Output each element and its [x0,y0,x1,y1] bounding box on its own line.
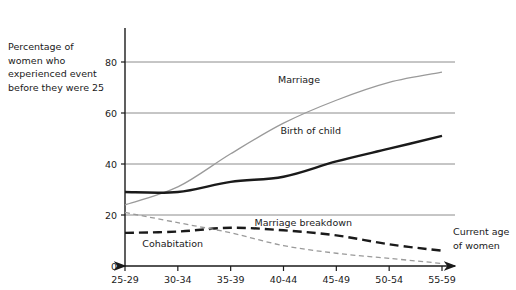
y-tick-label: 80 [105,57,117,68]
y-tick-label: 60 [105,108,117,119]
series-line [125,72,442,205]
series-annotations: MarriageBirth of childMarriage breakdown… [142,74,352,249]
y-tick-label: 0 [111,261,117,272]
x-tick-label: 40-44 [270,274,298,285]
x-tick-label: 35-39 [217,274,245,285]
series-label: Cohabitation [142,238,203,249]
x-tick-label: 25-29 [111,274,139,285]
x-axis-ticks: 25-2930-3435-3940-4445-4950-5455-59 [111,266,456,285]
series-label: Marriage breakdown [254,217,352,228]
x-tick-label: 30-34 [164,274,192,285]
chart-container: Percentage of women who experienced even… [0,0,516,290]
y-tick-label: 40 [105,159,117,170]
line-chart-plot: 020406080 25-2930-3435-3940-4445-4950-54… [0,0,516,290]
x-tick-label: 55-59 [428,274,456,285]
series-paths [125,72,442,263]
y-tick-label: 20 [105,210,117,221]
y-axis-ticks: 020406080 [105,57,125,272]
x-tick-label: 45-49 [323,274,351,285]
series-label: Marriage [278,74,320,85]
series-label: Birth of child [280,125,341,136]
x-tick-label: 50-54 [375,274,403,285]
